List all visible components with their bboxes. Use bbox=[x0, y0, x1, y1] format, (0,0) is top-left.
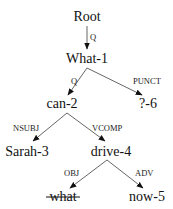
edge-label-q-can: Q bbox=[71, 76, 77, 86]
edge-label-q-root: Q bbox=[90, 32, 96, 42]
node-root: Root bbox=[73, 9, 100, 24]
edge-what1-can2: Q bbox=[68, 68, 87, 95]
edge-drive4-now5: ADV bbox=[107, 160, 154, 188]
edge-what1-q6: PUNCT bbox=[87, 68, 162, 95]
edge-label-obj: OBJ bbox=[64, 168, 80, 178]
node-sarah-3: Sarah-3 bbox=[5, 144, 49, 159]
edge-label-punct: PUNCT bbox=[133, 76, 162, 86]
node-question-6: ?-6 bbox=[139, 96, 157, 111]
edge-can2-sarah3: NSUBJ bbox=[13, 113, 67, 141]
node-now-5: now-5 bbox=[129, 189, 165, 204]
edge-label-adv: ADV bbox=[135, 168, 154, 178]
node-what-1: What-1 bbox=[66, 51, 108, 66]
dependency-tree-diagram: Q Q PUNCT NSUBJ VCOMP OBJ ADV Root What-… bbox=[0, 0, 173, 209]
edge-label-vcomp: VCOMP bbox=[92, 123, 123, 133]
edge-root-what1: Q bbox=[87, 26, 96, 49]
edge-can2-drive4: VCOMP bbox=[67, 113, 123, 141]
edge-label-nsubj: NSUBJ bbox=[13, 123, 40, 133]
edge-drive4-what: OBJ bbox=[64, 160, 107, 188]
node-drive-4: drive-4 bbox=[91, 144, 131, 159]
node-can-2: can-2 bbox=[46, 96, 77, 111]
